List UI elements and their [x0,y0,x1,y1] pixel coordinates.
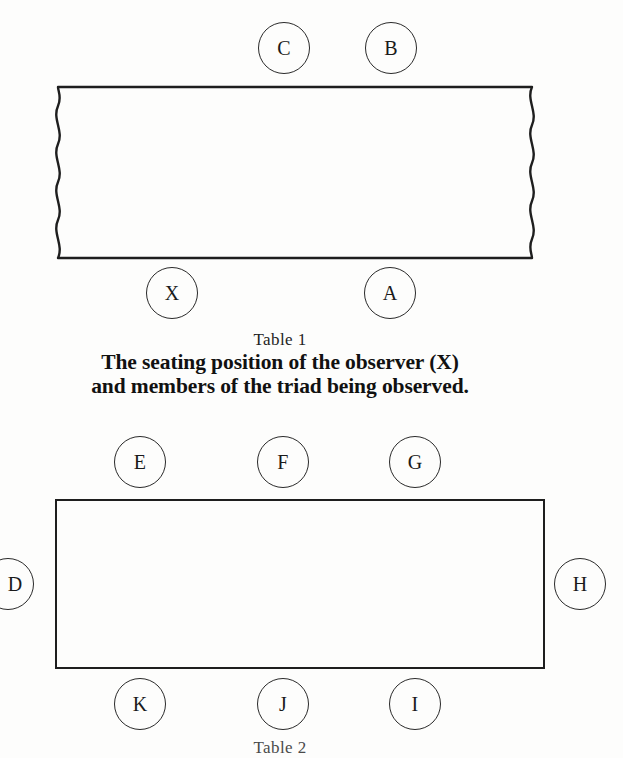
seat-label-e: E [134,452,147,472]
seat-circle-d: D [0,558,34,610]
caption-table-1-number: Table 1 [0,330,560,350]
scanned-figure-page: C B X A Table 1 The seating position of … [0,0,623,758]
seat-label-a: A [383,283,398,303]
table-2-shape [55,499,545,669]
seat-label-d: D [8,574,23,594]
table-1-shape [40,78,550,273]
seat-circle-g: G [389,436,441,488]
seat-circle-x: X [146,267,198,319]
seat-circle-b: B [365,22,417,74]
seat-label-k: K [133,694,148,714]
seat-label-b: B [384,38,398,58]
seat-circle-i: I [389,678,441,730]
caption-table-1: Table 1 The seating position of the obse… [0,330,560,398]
seat-circle-k: K [114,678,166,730]
seat-circle-j: J [257,678,309,730]
seat-label-f: F [277,452,288,472]
caption-table-1-line-one: The seating position of the observer (X) [0,350,560,374]
caption-table-2: Table 2 [0,738,560,758]
seat-circle-h: H [554,558,606,610]
caption-emphasis-observer: (X) [429,350,459,374]
table-1-outline [40,78,550,273]
caption-table-1-line-two: and members of the triad being observed. [0,374,560,398]
seat-circle-f: F [257,436,309,488]
seat-label-c: C [277,38,291,58]
seat-label-j: J [279,694,287,714]
seat-label-i: I [412,694,419,714]
seat-circle-c: C [258,22,310,74]
seat-label-h: H [573,574,588,594]
seat-circle-e: E [114,436,166,488]
seat-label-g: G [408,452,423,472]
seat-circle-a: A [364,267,416,319]
seat-label-x: X [165,283,180,303]
caption-table-2-number: Table 2 [0,738,560,758]
